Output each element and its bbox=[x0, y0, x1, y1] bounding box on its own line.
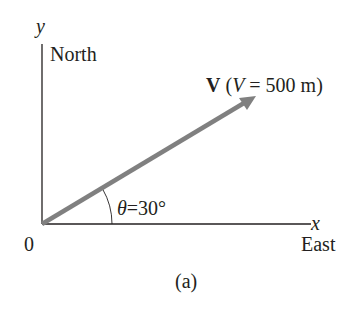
origin-label: 0 bbox=[24, 234, 34, 254]
x-axis-direction-label: East bbox=[301, 234, 335, 254]
vector-magnitude-symbol: V bbox=[232, 74, 244, 96]
y-axis-direction-label: North bbox=[50, 44, 97, 64]
angle-symbol: θ bbox=[117, 197, 127, 219]
angle-value: =30° bbox=[127, 197, 166, 219]
x-axis-symbol: x bbox=[311, 213, 320, 233]
figure-caption: (a) bbox=[175, 271, 197, 291]
y-axis-symbol: y bbox=[36, 16, 45, 36]
vector-label: V (V = 500 m) bbox=[206, 75, 323, 95]
angle-label: θ=30° bbox=[117, 198, 166, 218]
vector-symbol: V bbox=[206, 74, 220, 96]
vector-magnitude-value: = 500 m) bbox=[249, 74, 323, 96]
angle-arc bbox=[103, 189, 112, 224]
